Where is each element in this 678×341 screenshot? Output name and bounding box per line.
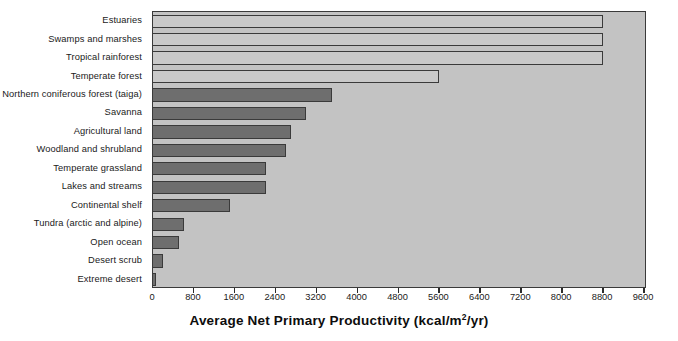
x-axis-tick-label: 3200 <box>305 292 326 302</box>
bar-row <box>153 178 645 196</box>
y-axis-label: Temperate grassland <box>0 159 148 177</box>
bar <box>153 125 291 138</box>
x-axis-tick-label: 1600 <box>223 292 244 302</box>
bar-row <box>153 104 645 122</box>
bar <box>153 70 439 83</box>
y-axis-label: Desert scrub <box>0 251 148 269</box>
bar <box>153 181 266 194</box>
bar <box>153 144 286 157</box>
x-axis-tick-label: 8800 <box>592 292 613 302</box>
bar-row <box>153 197 645 215</box>
x-axis-title-superscript: 2 <box>462 312 467 322</box>
bar-row <box>153 141 645 159</box>
y-axis-label: Woodland and shrubland <box>0 140 148 158</box>
bar <box>153 88 332 101</box>
bar-row <box>153 215 645 233</box>
y-axis-label: Swamps and marshes <box>0 29 148 47</box>
bar-row <box>153 86 645 104</box>
bar-row <box>153 30 645 48</box>
bar-row <box>153 160 645 178</box>
x-axis-tick-label: 5600 <box>428 292 449 302</box>
y-axis-label: Estuaries <box>0 11 148 29</box>
x-axis-tick-label: 2400 <box>264 292 285 302</box>
bar <box>153 51 603 64</box>
bar-row <box>153 252 645 270</box>
bar-row <box>153 123 645 141</box>
bar <box>153 236 179 249</box>
bar <box>153 273 156 286</box>
x-axis-tick-label: 4800 <box>387 292 408 302</box>
bar <box>153 107 306 120</box>
bar <box>153 218 184 231</box>
bar <box>153 33 603 46</box>
y-axis-label: Tundra (arctic and alpine) <box>0 214 148 232</box>
y-axis-label: Open ocean <box>0 232 148 250</box>
y-axis-label: Tropical rainforest <box>0 48 148 66</box>
x-axis-tick-label: 9600 <box>633 292 654 302</box>
bar-row <box>153 12 645 30</box>
bar-row <box>153 270 645 288</box>
y-axis-label: Agricultural land <box>0 122 148 140</box>
y-axis-label: Lakes and streams <box>0 177 148 195</box>
x-axis-tick-label: 6400 <box>469 292 490 302</box>
bars-layer <box>153 12 645 287</box>
y-axis-label: Continental shelf <box>0 196 148 214</box>
bar <box>153 162 266 175</box>
y-axis-label: Extreme desert <box>0 269 148 287</box>
y-axis-category-labels: EstuariesSwamps and marshesTropical rain… <box>0 11 148 288</box>
x-axis-tick-label: 800 <box>185 292 201 302</box>
bar-row <box>153 49 645 67</box>
plot-area <box>152 11 646 288</box>
x-axis-tick-label: 8000 <box>551 292 572 302</box>
x-axis-tick-label: 0 <box>149 292 154 302</box>
y-axis-label: Northern coniferous forest (taiga) <box>0 85 148 103</box>
bar <box>153 15 603 28</box>
bar-row <box>153 233 645 251</box>
x-axis-tick-labels: 0800160024003200400048005600640072008000… <box>0 292 678 308</box>
bar-row <box>153 67 645 85</box>
x-axis-tick-label: 7200 <box>510 292 531 302</box>
bar <box>153 199 230 212</box>
y-axis-label: Savanna <box>0 103 148 121</box>
y-axis-label: Temperate forest <box>0 66 148 84</box>
chart-page: EstuariesSwamps and marshesTropical rain… <box>0 0 678 341</box>
x-axis-tick-label: 4000 <box>346 292 367 302</box>
x-axis-title: Average Net Primary Productivity (kcal/m… <box>0 313 678 328</box>
bar <box>153 254 163 267</box>
